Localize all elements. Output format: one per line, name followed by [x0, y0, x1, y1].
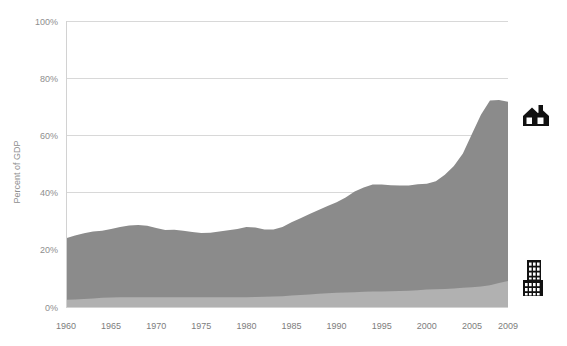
area-series-residential — [66, 100, 508, 307]
y-axis-title: Percent of GDP — [12, 140, 22, 203]
y-tick-label: 20% — [40, 245, 58, 255]
x-tick-label: 1970 — [146, 321, 166, 331]
x-tick-label: 1995 — [372, 321, 392, 331]
y-tick-label: 80% — [40, 74, 58, 84]
x-axis-tick-labels: 1960196519701975198019851990199520002005… — [56, 321, 518, 331]
y-tick-label: 100% — [35, 17, 58, 27]
x-tick-label: 2005 — [462, 321, 482, 331]
x-tick-label: 1975 — [191, 321, 211, 331]
x-tick-label: 2009 — [498, 321, 518, 331]
y-tick-label: 40% — [40, 188, 58, 198]
x-tick-label: 1980 — [236, 321, 256, 331]
x-tick-label: 1960 — [56, 321, 76, 331]
y-tick-label: 0% — [45, 303, 58, 313]
house-icon — [521, 101, 551, 131]
y-axis-tick-labels: 0%20%40%60%80%100% — [35, 17, 58, 313]
x-tick-label: 1965 — [101, 321, 121, 331]
x-tick-label: 1990 — [327, 321, 347, 331]
office-building-icon — [522, 258, 548, 298]
chart-container: 0%20%40%60%80%100% 196019651970197519801… — [0, 0, 567, 346]
x-tick-label: 1985 — [281, 321, 301, 331]
y-tick-label: 60% — [40, 131, 58, 141]
x-tick-label: 2000 — [417, 321, 437, 331]
area-series-group — [66, 100, 508, 307]
stacked-area-chart: 0%20%40%60%80%100% 196019651970197519801… — [0, 0, 567, 346]
